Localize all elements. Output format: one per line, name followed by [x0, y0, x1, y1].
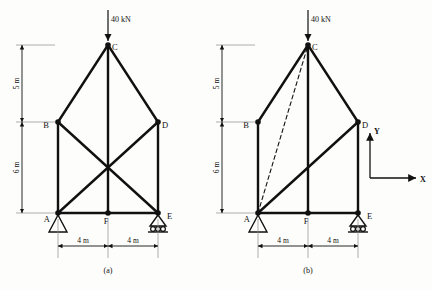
- truss-figure-svg: ABCDEFABCDEF 40 kN5 m6 m4 m4 m(a)40 kN5 …: [0, 0, 432, 290]
- truss-member-CD: [108, 45, 158, 122]
- truss-member-BC: [258, 45, 308, 122]
- joint-label-A: A: [44, 214, 51, 224]
- dim-text-4m-right: 4 m: [127, 236, 139, 245]
- joint-label-E: E: [367, 211, 372, 221]
- joint-label-A: A: [244, 214, 251, 224]
- panel-caption-1: (b): [303, 266, 313, 275]
- truss-member-AC: [258, 45, 308, 213]
- dim-text-4m-left: 4 m: [77, 236, 89, 245]
- panel-caption-0: (a): [104, 266, 113, 275]
- truss-joint-F: [305, 210, 311, 216]
- load-label-text: 40 kN: [311, 15, 331, 24]
- joint-label-D: D: [162, 120, 168, 130]
- axis-x-label-text: X: [420, 175, 426, 184]
- roller-support-E-roller-0: [151, 227, 156, 232]
- truss-panel-b: ABCDEF: [243, 42, 372, 232]
- truss-panel-a: ABCDEF: [43, 42, 172, 232]
- truss-joint-D: [155, 119, 161, 125]
- axis-y-label-text: Y: [374, 127, 380, 136]
- dim-text-5m: 5 m: [212, 78, 221, 90]
- joint-label-C: C: [112, 42, 118, 52]
- dim-text-6m: 6 m: [12, 162, 21, 174]
- truss-member-CD: [308, 45, 358, 122]
- roller-support-E-roller-2: [361, 227, 366, 232]
- truss-joint-B: [255, 119, 261, 125]
- figure-canvas: ABCDEFABCDEF 40 kN5 m6 m4 m4 m(a)40 kN5 …: [0, 0, 432, 290]
- annotations-group: 40 kN5 m6 m4 m4 m(a)40 kN5 m6 m4 m4 m(b)…: [12, 10, 426, 275]
- truss-joint-C: [305, 42, 311, 48]
- truss-member-BC: [58, 45, 108, 122]
- joint-label-D: D: [362, 120, 368, 130]
- joint-label-C: C: [312, 42, 318, 52]
- dim-text-4m-left: 4 m: [277, 236, 289, 245]
- truss-joint-B: [55, 119, 61, 125]
- truss-joint-F: [105, 210, 111, 216]
- load-label-text: 40 kN: [111, 15, 131, 24]
- dim-text-6m: 6 m: [212, 162, 221, 174]
- truss-joint-D: [355, 119, 361, 125]
- joint-label-B: B: [243, 120, 249, 130]
- joint-label-B: B: [43, 120, 49, 130]
- joint-label-E: E: [167, 211, 172, 221]
- dim-text-4m-right: 4 m: [327, 236, 339, 245]
- roller-support-E-roller-0: [351, 227, 356, 232]
- truss-joint-C: [105, 42, 111, 48]
- dim-text-5m: 5 m: [12, 78, 21, 90]
- panels-group: ABCDEFABCDEF: [43, 42, 372, 232]
- roller-support-E-roller-2: [161, 227, 166, 232]
